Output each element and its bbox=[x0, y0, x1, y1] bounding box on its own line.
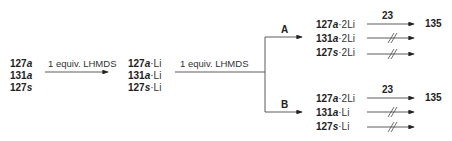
step1-reagent: 1 equiv. LHMDS bbox=[48, 58, 116, 69]
branch-a-reagent: 23 bbox=[382, 10, 393, 21]
branch-a-label: A bbox=[281, 24, 288, 35]
compound-127s: 127s bbox=[10, 82, 32, 94]
starting-materials: 127a 131a 127s bbox=[10, 58, 32, 94]
compound-127a: 127a bbox=[10, 58, 32, 70]
compound-131a: 131a bbox=[10, 70, 32, 82]
branch-b-reagent: 23 bbox=[382, 84, 393, 95]
branch-b-product: 135 bbox=[425, 92, 442, 103]
step2-reagent: 1 equiv. LHMDS bbox=[180, 58, 248, 69]
branch-b-species: 127a·2Li 131a·Li 127s·Li bbox=[316, 92, 355, 134]
branch-a-species: 127a·2Li 131a·2Li 127s·2Li bbox=[316, 18, 355, 60]
mono-lithiated: 127a·Li 131a·Li 127s·Li bbox=[128, 58, 161, 94]
scheme-lines bbox=[0, 0, 452, 141]
branch-b-label: B bbox=[281, 99, 288, 110]
branch-a-product: 135 bbox=[425, 18, 442, 29]
